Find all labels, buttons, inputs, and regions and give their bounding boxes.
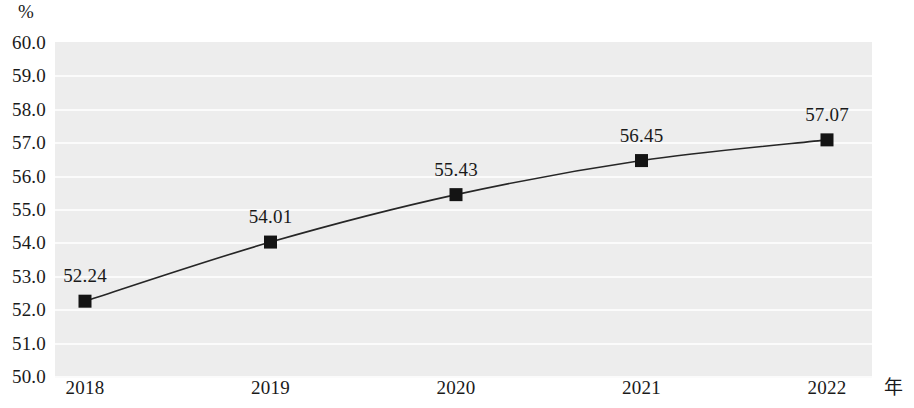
data-point-label: 57.07 <box>805 105 849 124</box>
x-axis-tick-label: 2020 <box>437 378 476 397</box>
data-point-label: 54.01 <box>249 207 293 226</box>
data-point-label: 52.24 <box>63 266 107 285</box>
data-point-label: 56.45 <box>620 126 664 145</box>
data-point-label: 55.43 <box>434 160 478 179</box>
gridline <box>55 109 872 111</box>
x-axis-tick-label: 2018 <box>66 378 105 397</box>
y-axis-tick-label: 59.0 <box>12 66 46 85</box>
y-axis-tick-label: 55.0 <box>12 200 46 219</box>
plot-area <box>55 42 872 376</box>
y-axis-tick-labels: 60.059.058.057.056.055.054.053.052.051.0… <box>0 0 55 408</box>
y-axis-tick-label: 52.0 <box>12 300 46 319</box>
y-axis-tick-label: 51.0 <box>12 333 46 352</box>
y-axis-tick-label: 53.0 <box>12 266 46 285</box>
gridline <box>55 276 872 278</box>
y-axis-tick-label: 60.0 <box>12 33 46 52</box>
line-chart: % 年 60.059.058.057.056.055.054.053.052.0… <box>0 0 914 408</box>
x-axis-unit-label: 年 <box>884 378 903 397</box>
gridline <box>55 309 872 311</box>
gridline <box>55 75 872 77</box>
y-axis-tick-label: 57.0 <box>12 133 46 152</box>
y-axis-tick-label: 56.0 <box>12 166 46 185</box>
y-axis-tick-label: 50.0 <box>12 367 46 386</box>
x-axis-tick-label: 2022 <box>808 378 847 397</box>
gridline <box>55 242 872 244</box>
gridline <box>55 343 872 345</box>
y-axis-tick-label: 58.0 <box>12 99 46 118</box>
x-axis-tick-label: 2021 <box>622 378 661 397</box>
y-axis-tick-label: 54.0 <box>12 233 46 252</box>
x-axis-tick-label: 2019 <box>251 378 290 397</box>
gridline <box>55 142 872 144</box>
gridline <box>55 209 872 211</box>
